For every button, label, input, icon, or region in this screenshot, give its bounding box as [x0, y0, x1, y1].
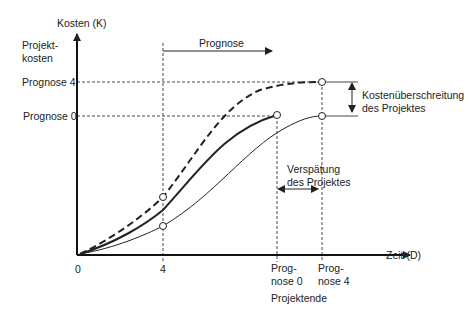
- guide-lines: [77, 43, 322, 262]
- x-tick-prognose-0-line2: nose 0: [271, 275, 303, 288]
- y-tick-prognose-4: Prognose 4: [22, 76, 76, 89]
- x-tick-prognose-0-line1: Prog-: [271, 262, 303, 275]
- x-tick-prognose-4: Prog- nose 4: [318, 262, 350, 288]
- delay-line1: Verspätung: [287, 163, 351, 176]
- x-tick-0: 0: [75, 263, 81, 276]
- y-tick-prognose-0: Prognose 0: [23, 110, 77, 123]
- x-tick-4: 4: [160, 263, 166, 276]
- y-axis-sublabel-line1: Projekt-: [22, 39, 58, 52]
- forecast-label: Prognose: [199, 37, 244, 50]
- x-tick-prognose-4-line1: Prog-: [318, 262, 350, 275]
- x-axis-title: Zeit (D): [386, 249, 421, 262]
- x-tick-prognose-4-line2: nose 4: [318, 275, 350, 288]
- y-axis-title: Kosten (K): [57, 17, 107, 30]
- axes: [77, 34, 410, 255]
- project-end-label: Projektende: [271, 292, 327, 305]
- cost-overrun-line2: des Projektes: [362, 102, 464, 115]
- y-axis-sublabel-line2: kosten: [22, 52, 58, 65]
- x-tick-prognose-0: Prog- nose 0: [271, 262, 303, 288]
- cost-overrun-arrow: [348, 82, 356, 112]
- cost-overrun-line1: Kostenüberschreitung: [362, 89, 464, 102]
- delay-line2: des Projektes: [287, 176, 351, 189]
- delay-label: Verspätung des Projektes: [287, 163, 351, 189]
- y-axis-sublabel: Projekt- kosten: [22, 39, 58, 65]
- cost-overrun-label: Kostenüberschreitung des Projektes: [362, 89, 464, 115]
- curve-prognose-0-plan: [80, 115, 277, 254]
- curve-actual-progress: [80, 116, 322, 254]
